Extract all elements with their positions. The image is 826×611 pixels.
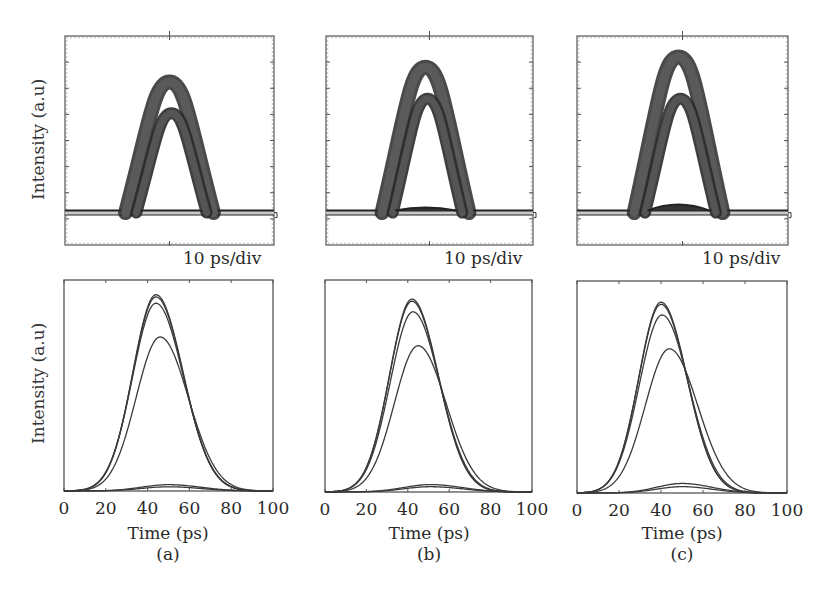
scope-panel-c xyxy=(577,31,791,246)
scale-label-c: 10 ps/div xyxy=(702,248,780,268)
bottom-ylabel-a: Intensity (a.u) xyxy=(28,324,48,444)
scope-panel-a xyxy=(65,31,277,246)
trace-4 xyxy=(325,346,532,492)
xlabel-a: Time (ps) xyxy=(127,523,208,543)
scale-label-a: 10 ps/div xyxy=(183,248,261,268)
xlabel-b: Time (ps) xyxy=(388,523,469,543)
x-tick-label: 20 xyxy=(608,500,630,520)
trace-2 xyxy=(325,301,532,492)
x-tick-label: 80 xyxy=(480,499,502,519)
x-tick-label: 0 xyxy=(572,500,583,520)
sim-panel-b xyxy=(325,280,532,492)
xlabel-c: Time (ps) xyxy=(641,523,722,543)
sim-panel-c xyxy=(577,281,787,493)
x-tick-label: 0 xyxy=(59,498,70,518)
x-tick-label: 40 xyxy=(397,499,419,519)
x-tick-label: 40 xyxy=(137,498,159,518)
panel-label-b: (b) xyxy=(417,544,441,564)
x-tick-label: 20 xyxy=(95,498,117,518)
trace-5 xyxy=(325,485,532,492)
x-tick-label: 60 xyxy=(692,500,714,520)
trace-4 xyxy=(64,337,273,491)
trace-3 xyxy=(64,303,273,491)
x-tick-label: 60 xyxy=(179,498,201,518)
x-tick-label: 0 xyxy=(320,499,331,519)
trace-4 xyxy=(577,349,787,493)
trace-1 xyxy=(325,299,532,492)
top-ylabel-a: Intensity (a.u) xyxy=(28,80,48,200)
x-tick-label: 80 xyxy=(220,498,242,518)
panel-label-a: (a) xyxy=(156,544,179,564)
scope-panel-b xyxy=(326,31,536,246)
trace-3 xyxy=(577,315,787,493)
x-tick-label: 100 xyxy=(257,498,289,518)
trace-3 xyxy=(325,312,532,492)
panel-label-c: (c) xyxy=(671,544,694,564)
x-tick-label: 40 xyxy=(650,500,672,520)
scale-label-b: 10 ps/div xyxy=(444,248,522,268)
x-tick-label: 100 xyxy=(771,500,803,520)
trace-2 xyxy=(577,304,787,493)
x-tick-label: 20 xyxy=(356,499,378,519)
trace-2 xyxy=(64,297,273,491)
x-tick-label: 60 xyxy=(438,499,460,519)
trace-1 xyxy=(577,302,787,493)
sim-panel-a xyxy=(64,280,273,491)
x-tick-label: 100 xyxy=(516,499,548,519)
trace-1 xyxy=(64,295,273,491)
x-tick-label: 80 xyxy=(734,500,756,520)
